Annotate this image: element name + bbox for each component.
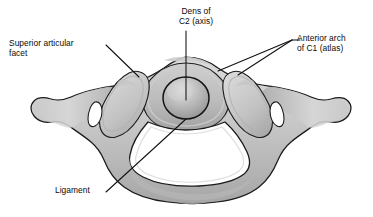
label-dens-of-c2-line2: C2 (axis) — [153, 16, 239, 26]
label-anterior-arch-of-c1-line1: Anterior arch — [297, 33, 346, 43]
leader-line-superior-articular-facet — [106, 45, 139, 77]
label-dens-of-c2: Dens of C2 (axis) — [153, 6, 239, 27]
leader-line-anterior-arch-right-branch — [238, 40, 292, 75]
label-superior-articular-facet: Superior articular facet — [9, 38, 74, 59]
label-superior-articular-facet-line1: Superior articular — [9, 38, 74, 48]
label-anterior-arch-of-c1: Anterior arch of C1 (atlas) — [297, 33, 346, 54]
label-anterior-arch-of-c1-line2: of C1 (atlas) — [297, 43, 346, 53]
label-ligament-line1: Ligament — [55, 185, 90, 195]
label-ligament: Ligament — [55, 185, 90, 195]
label-superior-articular-facet-line2: facet — [9, 48, 74, 58]
dens-inner-highlight — [167, 81, 193, 101]
leader-line-anterior-arch-left-branch — [218, 40, 292, 71]
label-dens-of-c2-line1: Dens of — [153, 6, 239, 16]
